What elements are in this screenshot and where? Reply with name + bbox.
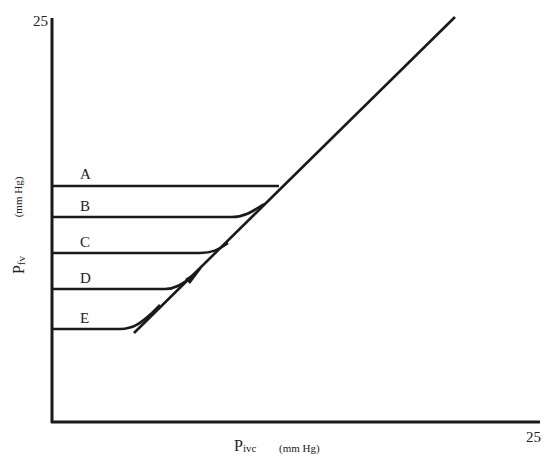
curve-a-label: A [80, 166, 91, 183]
curve-b-label: B [80, 198, 90, 215]
identity-diagonal-line [134, 17, 455, 333]
diagram-canvas [0, 0, 552, 465]
x-axis-title-main: P [234, 437, 243, 454]
curve-c-label: C [80, 234, 90, 251]
y-axis-max-tick: 25 [33, 13, 48, 30]
x-axis-unit: (mm Hg) [279, 442, 320, 454]
y-axis-unit: (mm Hg) [12, 177, 24, 218]
y-axis-title: Pfv [10, 256, 28, 274]
curve-e-line [52, 305, 160, 329]
curve-d-line [52, 277, 192, 289]
curve-c-line [52, 243, 228, 253]
x-axis-title-sub: ivc [243, 442, 256, 454]
y-axis-title-sub: fv [15, 256, 27, 265]
y-axis-title-main: P [10, 265, 27, 274]
curve-d-label: D [80, 270, 91, 287]
x-axis-title: Pivc [234, 437, 256, 455]
x-axis-max-tick: 25 [526, 429, 541, 446]
pressure-diagram: 25 25 A B C D E Pfv (mm Hg) Pivc (mm Hg) [0, 0, 552, 465]
curve-e-label: E [80, 310, 89, 327]
